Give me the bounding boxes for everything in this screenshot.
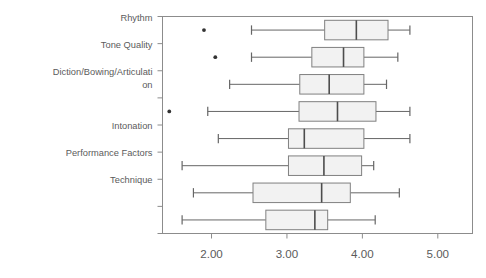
y-axis-category-label: Rhythm (120, 13, 152, 23)
y-axis-label-line: on (142, 80, 152, 90)
x-axis-ticks (212, 234, 438, 239)
y-axis-category-label: Performance Factors (66, 148, 153, 158)
outlier-point (167, 110, 171, 114)
box-plot-chart: RhythmTone QualityDiction/Bowing/Articul… (0, 0, 486, 278)
y-axis-label-line: Performance Factors (66, 148, 153, 158)
box-rect (253, 183, 350, 203)
y-axis-label-line: Technique (110, 175, 152, 185)
y-axis-category-label: Tone Quality (101, 40, 153, 50)
box-rect (312, 47, 364, 67)
y-axis-category-label: Technique (110, 175, 152, 185)
y-axis-label-line: Diction/Bowing/Articulati (53, 67, 153, 77)
box-rect (266, 210, 328, 230)
y-axis-category-label: Diction/Bowing/Articulation (53, 67, 153, 90)
box-rect (300, 75, 364, 95)
outlier-point (202, 28, 206, 32)
y-axis-ticks (158, 17, 163, 234)
outlier-point (213, 55, 217, 59)
x-axis-tick-label: 5.00 (427, 247, 450, 260)
chart-canvas: RhythmTone QualityDiction/Bowing/Articul… (0, 0, 486, 278)
y-axis-label-line: Rhythm (120, 13, 152, 23)
y-axis-label-line: Intonation (112, 121, 153, 131)
box-rect (288, 129, 363, 149)
x-axis-tick-label: 3.00 (276, 247, 299, 260)
y-axis-category-label: Intonation (112, 121, 153, 131)
y-axis-labels: RhythmTone QualityDiction/Bowing/Articul… (53, 13, 153, 186)
x-axis-tick-label: 2.00 (200, 247, 223, 260)
x-axis-tick-label: 4.00 (351, 247, 374, 260)
y-axis-label-line: Tone Quality (101, 40, 153, 50)
x-axis-tick-labels: 2.003.004.005.00 (200, 247, 449, 260)
box-rect (288, 156, 361, 176)
